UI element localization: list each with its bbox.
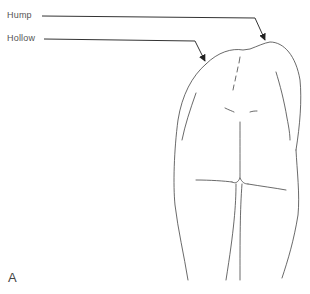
inner-thigh-right <box>240 184 242 280</box>
left-torso-outline <box>174 64 206 280</box>
hollow-leader-arrow <box>44 39 205 61</box>
shoulder-outline <box>206 42 301 150</box>
gluteal-cleft <box>232 122 240 183</box>
body-illustration <box>0 0 310 294</box>
hump-leader-arrow <box>42 16 265 40</box>
inner-thigh-left <box>226 184 236 280</box>
